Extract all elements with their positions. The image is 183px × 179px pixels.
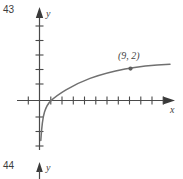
data-point-marker xyxy=(128,67,132,71)
next-figure-y-axis-label: y xyxy=(45,162,51,173)
x-axis-label: x xyxy=(169,104,175,115)
data-point-label: (9, 2) xyxy=(118,50,140,62)
y-axis-label: y xyxy=(45,8,51,19)
figure-container: 43 44 xyxy=(0,0,183,179)
y-axis-arrowhead xyxy=(36,7,43,18)
log-curve xyxy=(41,64,170,140)
logarithmic-graph: (9, 2) x y y xyxy=(0,0,183,179)
